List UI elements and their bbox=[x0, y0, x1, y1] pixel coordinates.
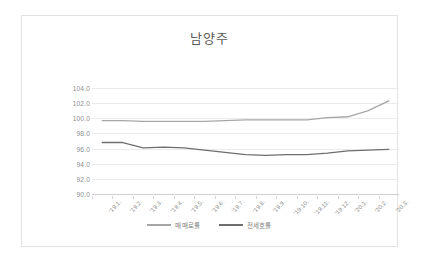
x-axis-tick-label: '20.3. bbox=[394, 199, 409, 214]
y-axis-tick-label: 90.0 bbox=[77, 191, 90, 198]
x-axis-tick-label: '19.10. bbox=[293, 199, 310, 216]
plot-area bbox=[92, 88, 399, 194]
y-axis-labels: 104.0102.0100.098.096.094.092.090.0 bbox=[58, 88, 90, 194]
legend-item[interactable]: 매매로률 bbox=[147, 220, 200, 230]
x-axis-tickmark bbox=[215, 196, 216, 199]
x-axis-tickmark bbox=[92, 196, 93, 199]
x-axis-tickmark bbox=[194, 196, 195, 199]
y-axis-tick-label: 98.0 bbox=[77, 130, 90, 137]
x-axis-tickmark bbox=[256, 196, 257, 199]
x-axis-tick-label: '19.9. bbox=[272, 199, 287, 214]
legend-label: 전세호률 bbox=[247, 220, 272, 230]
x-axis-tick-label: '19.2. bbox=[128, 199, 143, 214]
y-axis-tick-label: 102.0 bbox=[73, 100, 90, 107]
x-axis-tickmark bbox=[379, 196, 380, 199]
y-axis-tick-label: 96.0 bbox=[77, 145, 90, 152]
x-axis-line bbox=[92, 194, 399, 195]
chart-title: 남양주 bbox=[22, 28, 397, 47]
x-axis-tick-label: '19.12. bbox=[334, 199, 351, 216]
x-axis-labels: '19.1.'19.2.'19.3.'19.4.'19.5.'19.6.'19.… bbox=[92, 196, 399, 236]
x-axis-tickmark bbox=[133, 196, 134, 199]
x-axis-tickmark bbox=[112, 196, 113, 199]
x-axis-tick-label: '19.8. bbox=[251, 199, 266, 214]
y-axis-tick-label: 100.0 bbox=[73, 115, 90, 122]
series-line bbox=[102, 143, 389, 156]
x-axis-tick-label: '19.1. bbox=[108, 199, 123, 214]
x-axis-tickmark bbox=[297, 196, 298, 199]
x-axis-tick-label: '20.1. bbox=[353, 199, 368, 214]
x-axis-tickmark bbox=[235, 196, 236, 199]
x-axis-tick-label: '19.6. bbox=[210, 199, 225, 214]
series-lines bbox=[92, 88, 399, 194]
y-axis-tick-label: 92.0 bbox=[77, 175, 90, 182]
x-axis-tick-label: '19.4. bbox=[169, 199, 184, 214]
chart-container: 남양주 104.0102.0100.098.096.094.092.090.0 … bbox=[21, 15, 398, 247]
x-axis-tick-label: '19.11. bbox=[313, 199, 330, 216]
x-axis-tick-label: '19.3. bbox=[149, 199, 164, 214]
legend-label: 매매로률 bbox=[175, 220, 200, 230]
x-axis-tick-label: '20.2. bbox=[374, 199, 389, 214]
x-axis-tickmark bbox=[338, 196, 339, 199]
chart-legend: 매매로률전세호률 bbox=[22, 220, 397, 230]
legend-swatch bbox=[147, 224, 171, 226]
x-axis-tickmark bbox=[153, 196, 154, 199]
x-axis-tickmark bbox=[276, 196, 277, 199]
legend-swatch bbox=[219, 224, 243, 226]
x-axis-tickmark bbox=[317, 196, 318, 199]
y-axis-tick-label: 104.0 bbox=[73, 85, 90, 92]
x-axis-tickmark bbox=[174, 196, 175, 199]
x-axis-tick-label: '19.5. bbox=[190, 199, 205, 214]
y-axis-tick-label: 94.0 bbox=[77, 160, 90, 167]
x-axis-tick-label: '19.7. bbox=[231, 199, 246, 214]
series-line bbox=[102, 101, 389, 121]
legend-item[interactable]: 전세호률 bbox=[219, 220, 272, 230]
x-axis-tickmark bbox=[358, 196, 359, 199]
